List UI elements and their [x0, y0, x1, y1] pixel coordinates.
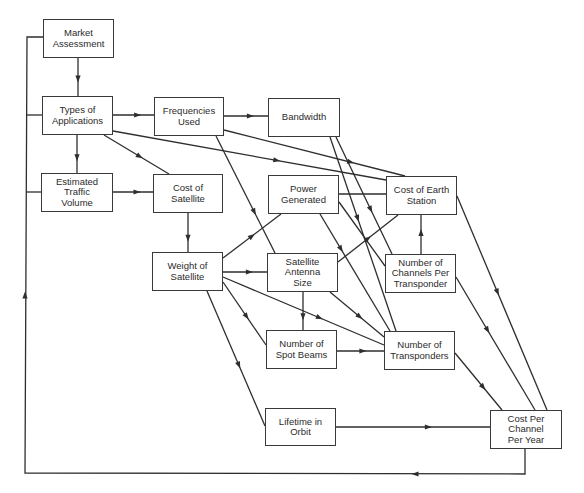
node-label: Lifetime in Orbit — [279, 417, 322, 438]
arrowhead-icon — [354, 214, 359, 221]
node-label: Market Assessment — [53, 28, 105, 49]
node-label: Number of Transponders — [390, 340, 448, 361]
arrowhead-icon — [337, 245, 343, 252]
node-label: Frequencies Used — [163, 106, 215, 127]
node-lifetime-in-orbit: Lifetime in Orbit — [265, 408, 336, 446]
node-satellite-antenna-size: Satellite Antenna Size — [267, 253, 338, 292]
node-label: Number of Channels Per Transponder — [392, 258, 450, 290]
arrowhead-icon — [75, 75, 80, 82]
node-number-of-transponders: Number of Transponders — [384, 331, 455, 370]
arrowhead-icon — [22, 292, 27, 299]
arrowhead-icon — [418, 229, 423, 236]
connector-line — [456, 277, 535, 410]
node-cost-of-earth-station: Cost of Earth Station — [386, 176, 457, 215]
node-label: Satellite Antenna Size — [285, 257, 320, 289]
node-types-of-applications: Types of Applications — [42, 96, 113, 135]
node-label: Power Generated — [281, 184, 326, 205]
connector-line — [223, 282, 266, 345]
arrowhead-icon — [246, 269, 253, 274]
node-number-of-channels-per-transponder: Number of Channels Per Transponder — [385, 254, 456, 293]
arrowhead-icon — [185, 235, 190, 242]
arrowhead-icon — [315, 314, 322, 319]
node-cost-of-satellite: Cost of Satellite — [153, 174, 223, 213]
arrowhead-icon — [412, 471, 419, 476]
arrowhead-icon — [243, 312, 249, 319]
node-number-of-spot-beams: Number of Spot Beams — [266, 330, 337, 369]
node-label: Cost of Satellite — [171, 183, 205, 204]
node-weight-of-satellite: Weight of Satellite — [152, 252, 223, 291]
arrowhead-icon — [250, 208, 255, 215]
connector-line — [330, 137, 396, 331]
arrowhead-icon — [273, 157, 280, 162]
connector-line — [455, 353, 502, 410]
figure-caption — [140, 488, 460, 493]
node-bandwidth: Bandwidth — [268, 98, 340, 137]
node-label: Types of Applications — [52, 105, 103, 126]
arrowhead-icon — [134, 189, 141, 194]
arrowhead-icon — [74, 154, 79, 161]
connector-line — [216, 136, 275, 253]
arrowhead-icon — [300, 313, 305, 320]
arrowhead-icon — [247, 113, 254, 118]
node-estimated-traffic-volume: Estimated Traffic Volume — [41, 173, 113, 212]
connector-line — [330, 292, 384, 337]
node-label: Number of Spot Beams — [276, 339, 328, 360]
arrowhead-icon — [367, 205, 372, 212]
arrowhead-icon — [359, 348, 366, 353]
node-label: Cost of Earth Station — [394, 185, 449, 206]
connector-line — [457, 196, 547, 410]
arrowhead-icon — [425, 424, 432, 429]
arrowhead-icon — [134, 112, 141, 117]
connector-line — [104, 135, 169, 174]
node-label: Bandwidth — [282, 112, 326, 123]
arrowhead-icon — [235, 361, 240, 368]
node-market-assessment: Market Assessment — [43, 19, 114, 58]
node-label: Weight of Satellite — [168, 261, 208, 282]
arrowhead-icon — [484, 326, 490, 333]
arrowhead-icon — [494, 288, 499, 295]
node-label: Estimated Traffic Volume — [56, 177, 98, 209]
node-frequencies-used: Frequencies Used — [154, 97, 224, 136]
connector-line — [207, 291, 265, 426]
node-cost-per-channel-per-year: Cost Per Channel Per Year — [490, 410, 562, 449]
arrowhead-icon — [135, 152, 142, 158]
node-label: Cost Per Channel Per Year — [508, 414, 545, 446]
node-power-generated: Power Generated — [268, 175, 339, 214]
